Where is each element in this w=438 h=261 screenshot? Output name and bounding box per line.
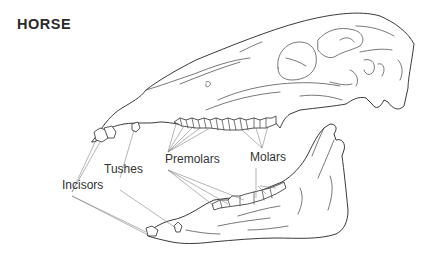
horse-skull-diagram: [0, 0, 438, 261]
tushes-leaders: [120, 130, 176, 228]
label-premolars: Premolars: [165, 152, 220, 166]
label-incisors: Incisors: [62, 178, 103, 192]
upper-incisors: [94, 126, 116, 142]
label-tushes: Tushes: [104, 162, 143, 176]
upper-tush: [132, 122, 140, 132]
label-molars: Molars: [250, 150, 286, 164]
